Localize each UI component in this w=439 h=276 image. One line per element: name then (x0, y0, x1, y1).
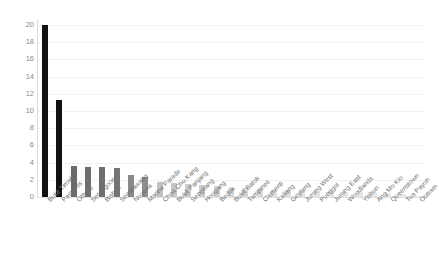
bar-slot (38, 25, 52, 197)
bar-slot (152, 25, 166, 197)
bar-slot (67, 25, 81, 197)
y-axis-tick-label: 12 (4, 90, 34, 98)
bar-slot (109, 25, 123, 197)
y-axis-tick-label: 10 (4, 107, 34, 115)
bar-slot (338, 25, 352, 197)
y-axis-tick-label: 18 (4, 38, 34, 46)
bar-slot (410, 25, 424, 197)
bar-slot (138, 25, 152, 197)
bar-slot (52, 25, 66, 197)
bar-slot (395, 25, 409, 197)
bar-slot (224, 25, 238, 197)
bar-slot (81, 25, 95, 197)
bar-slot (310, 25, 324, 197)
plot-area (38, 25, 424, 197)
bar[interactable] (42, 25, 48, 197)
bar-slot (238, 25, 252, 197)
y-axis-tick-label: 0 (4, 193, 34, 201)
y-axis-tick-labels: 02468101214161820 (0, 25, 34, 197)
bar-slot (95, 25, 109, 197)
x-axis-tick-labels: Bukit TimahPasir RisOthersSerangoonBisha… (38, 198, 424, 276)
bar-slot (281, 25, 295, 197)
bar-slot (367, 25, 381, 197)
y-axis-tick-label: 2 (4, 176, 34, 184)
bar-slot (210, 25, 224, 197)
y-axis-tick-label: 6 (4, 141, 34, 149)
bar-slot (381, 25, 395, 197)
bar-slot (295, 25, 309, 197)
bar-slot (252, 25, 266, 197)
y-axis-tick-label: 14 (4, 73, 34, 81)
bar-slot (353, 25, 367, 197)
y-axis-tick-label: 4 (4, 159, 34, 167)
bar-slot (324, 25, 338, 197)
y-axis-tick-label: 16 (4, 55, 34, 63)
y-axis-tick-label: 20 (4, 21, 34, 29)
y-axis-tick-label: 8 (4, 124, 34, 132)
bar-slot (124, 25, 138, 197)
bar-slot (267, 25, 281, 197)
